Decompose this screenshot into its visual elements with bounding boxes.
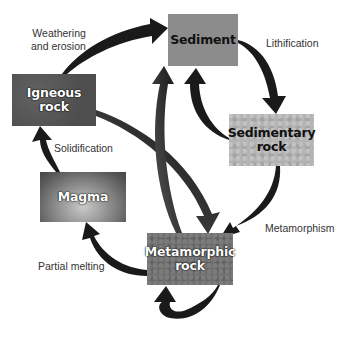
arrow-sedimentary-to-sediment [184, 68, 229, 140]
edge-label-metamorphism: Metamorphism [265, 222, 334, 235]
node-sedimentary-label-line2: rock [257, 140, 287, 154]
edge-label-weathering-and-erosion: Weathering and erosion [31, 27, 86, 52]
arrow-metamorphic-self-loop [154, 285, 220, 319]
arrow-metamorphic-to-sediment [152, 66, 182, 233]
node-metamorphic-rock: Metamorphic rock [147, 233, 233, 285]
node-metamorphic-label-line1: Metamorphic [145, 245, 235, 259]
node-igneous-rock: Igneous rock [12, 74, 96, 126]
node-magma-label: Magma [58, 190, 108, 204]
edge-label-weathering-line1: Weathering [31, 27, 86, 40]
node-sedimentary-label-line1: Sedimentary [228, 126, 316, 140]
node-magma: Magma [40, 172, 126, 222]
node-igneous-label-line1: Igneous [27, 86, 82, 100]
arrow-sediment-to-sedimentary [238, 40, 286, 114]
edge-label-lithification: Lithification [266, 37, 319, 50]
edge-label-partial-melting: Partial melting [38, 260, 105, 273]
node-sediment-label: Sediment [170, 33, 236, 47]
node-metamorphic-label-line2: rock [175, 259, 205, 273]
edge-label-solidification: Solidification [54, 142, 113, 155]
node-sediment: Sediment [168, 14, 238, 66]
node-sedimentary-rock: Sedimentary rock [229, 114, 314, 166]
node-igneous-label-line2: rock [39, 100, 69, 114]
edge-label-weathering-line2: and erosion [31, 40, 86, 53]
